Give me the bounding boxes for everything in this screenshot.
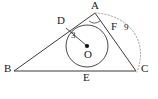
center-label-o: O	[84, 49, 92, 60]
side-length-label: 9	[124, 23, 129, 32]
geometry-figure: A B C D E F O 3 9	[0, 0, 158, 99]
vertex-label-c: C	[141, 63, 148, 74]
geometry-canvas	[0, 0, 158, 99]
tangent-label-d: D	[57, 15, 65, 26]
radius-length-label: 3	[71, 31, 76, 40]
vertex-label-a: A	[91, 0, 99, 11]
tangent-label-e: E	[83, 72, 90, 83]
vertex-label-b: B	[4, 63, 11, 74]
angle-mark-a	[89, 21, 100, 23]
tangent-label-f: F	[111, 21, 117, 32]
radius-segment-do	[66, 28, 87, 46]
triangle-abc	[14, 13, 136, 71]
